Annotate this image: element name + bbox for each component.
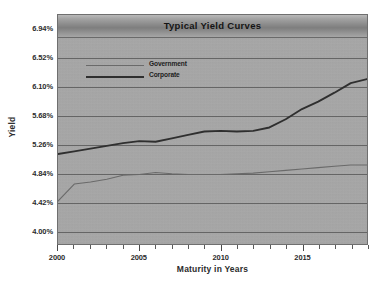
x-tick-minor: [90, 245, 91, 249]
series-line-corporate: [58, 79, 367, 154]
x-tick-major: [139, 245, 140, 251]
x-tick-major: [57, 245, 58, 251]
x-tick-label: 2015: [283, 253, 323, 262]
x-tick-minor: [335, 245, 336, 249]
legend-item-government: Government: [86, 61, 208, 71]
y-tick-label: 6.52%: [7, 53, 53, 62]
y-tick-label: 4.00%: [7, 227, 53, 236]
x-tick-minor: [253, 245, 254, 249]
x-tick-minor: [286, 245, 287, 249]
x-tick-minor: [73, 245, 74, 249]
legend-label-government: Government: [149, 60, 187, 67]
x-tick-minor: [155, 245, 156, 249]
x-axis-title: Maturity in Years: [57, 264, 368, 274]
x-tick-minor: [352, 245, 353, 249]
x-tick-minor: [123, 245, 124, 249]
y-axis-tick-labels: 4.00%4.42%4.84%5.26%5.68%6.10%6.52%6.94%: [5, 14, 53, 245]
x-tick-label: 2000: [37, 253, 77, 262]
legend-swatch-corporate: [86, 76, 144, 78]
plot-area: Typical Yield Curves Government Corporat…: [57, 14, 368, 245]
chart-title: Typical Yield Curves: [58, 20, 367, 31]
x-tick-minor: [172, 245, 173, 249]
x-tick-major: [303, 245, 304, 251]
x-tick-minor: [270, 245, 271, 249]
y-tick-label: 6.94%: [7, 24, 53, 33]
x-tick-minor: [237, 245, 238, 249]
y-tick-label: 5.26%: [7, 140, 53, 149]
title-banner: Typical Yield Curves: [58, 15, 367, 38]
x-tick-label: 2010: [201, 253, 241, 262]
y-tick-label: 4.84%: [7, 169, 53, 178]
legend-item-corporate: Corporate: [86, 72, 208, 82]
x-tick-label: 2005: [119, 253, 159, 262]
legend-label-corporate: Corporate: [149, 71, 180, 78]
y-tick-label: 5.68%: [7, 111, 53, 120]
x-tick-minor: [204, 245, 205, 249]
y-tick-label: 6.10%: [7, 82, 53, 91]
x-tick-minor: [319, 245, 320, 249]
yield-curve-figure: Yield 4.00%4.42%4.84%5.26%5.68%6.10%6.52…: [0, 0, 382, 287]
series-line-government: [58, 165, 367, 201]
x-tick-major: [221, 245, 222, 251]
y-tick-label: 4.42%: [7, 198, 53, 207]
chart-legend: Government Corporate: [86, 61, 208, 83]
legend-swatch-government: [86, 65, 144, 66]
x-tick-minor: [188, 245, 189, 249]
series-layer: [58, 15, 367, 244]
x-tick-minor: [106, 245, 107, 249]
x-tick-minor: [368, 245, 369, 249]
